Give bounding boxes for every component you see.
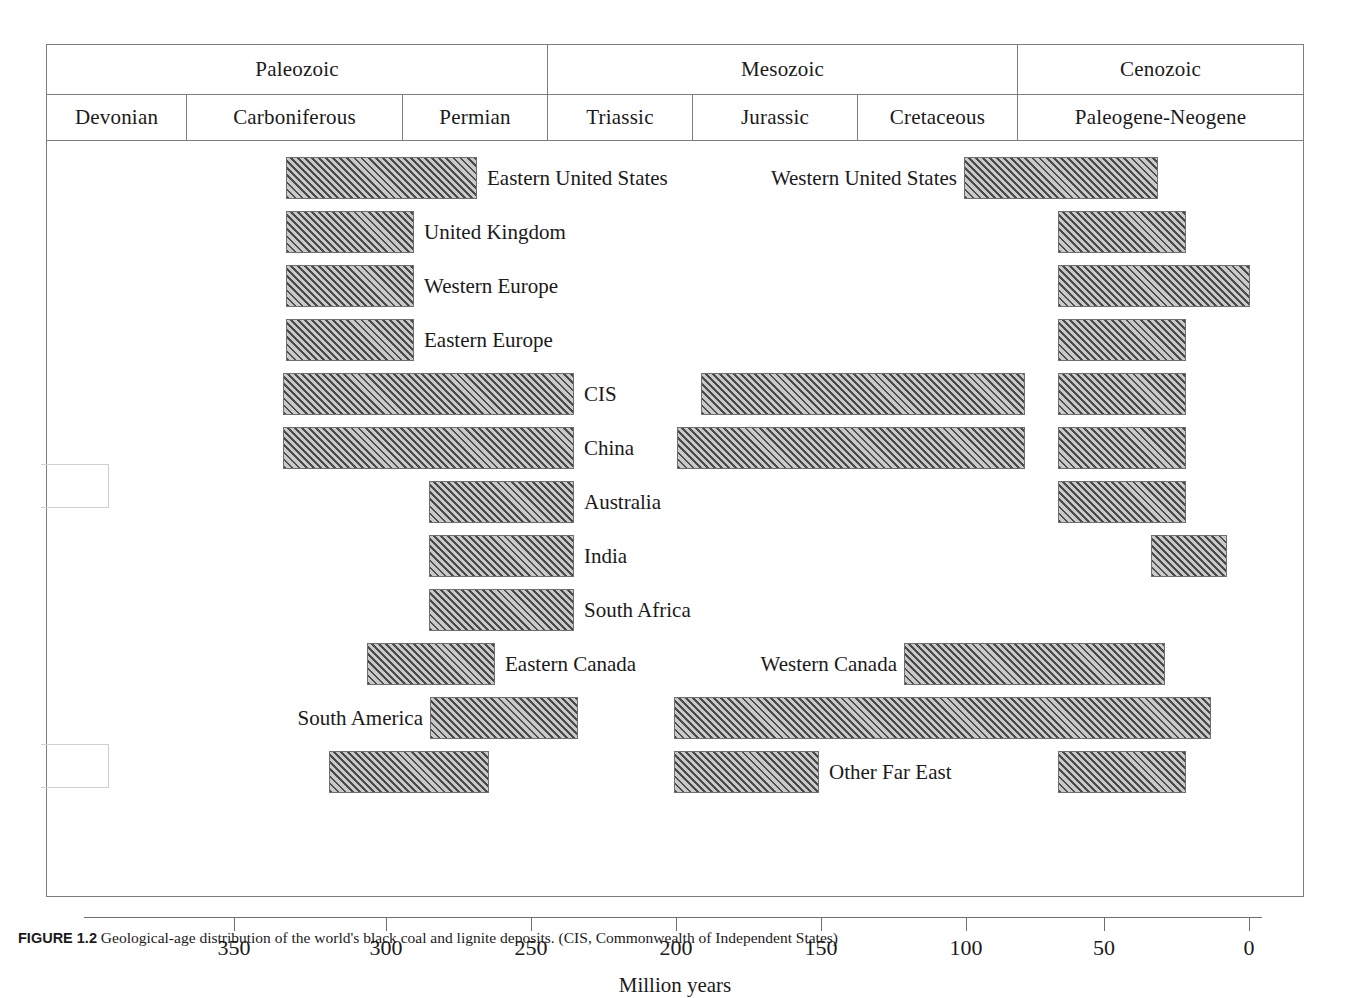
bar-china-3 xyxy=(1058,427,1186,469)
bar-india-1 xyxy=(429,535,574,577)
row-label-eastern-canada: Eastern Canada xyxy=(505,643,636,685)
row-label-other-far-east: Other Far East xyxy=(829,751,951,793)
plot-area: Eastern United States Western United Sta… xyxy=(47,141,1303,896)
bar-australia-1 xyxy=(429,481,574,523)
bar-australia-2 xyxy=(1058,481,1186,523)
bar-western-united-states-1 xyxy=(964,157,1158,199)
figure-caption-label: FIGURE 1.2 xyxy=(18,930,97,946)
era-label-paleozoic: Paleozoic xyxy=(255,57,338,82)
era-cell-paleozoic: Paleozoic xyxy=(47,45,548,94)
row-label-eastern-europe: Eastern Europe xyxy=(424,319,553,361)
bar-eastern-europe-1 xyxy=(286,319,414,361)
bar-other-far-east-1 xyxy=(329,751,489,793)
bar-south-america-2 xyxy=(674,697,1211,739)
bar-other-far-east-2 xyxy=(674,751,819,793)
axis-line xyxy=(84,917,1262,918)
row-label-western-europe: Western Europe xyxy=(424,265,558,307)
period-label-paleogene-neogene: Paleogene-Neogene xyxy=(1075,105,1246,130)
period-label-devonian: Devonian xyxy=(75,105,158,130)
bar-eastern-canada-1 xyxy=(367,643,495,685)
row-label-western-canada: Western Canada xyxy=(677,643,897,685)
row-label-united-kingdom: United Kingdom xyxy=(424,211,566,253)
bar-china-2 xyxy=(677,427,1025,469)
bar-cis-2 xyxy=(701,373,1025,415)
row-label-south-africa: South Africa xyxy=(584,589,691,631)
era-header-row: Paleozoic Mesozoic Cenozoic xyxy=(47,45,1303,95)
bar-china-1 xyxy=(283,427,574,469)
bar-cis-3 xyxy=(1058,373,1186,415)
period-cell-jurassic: Jurassic xyxy=(693,95,858,140)
bar-eastern-united-states-1 xyxy=(286,157,477,199)
figure-caption-text: Geological-age distribution of the world… xyxy=(101,929,838,946)
bar-south-america-1 xyxy=(430,697,578,739)
period-label-carboniferous: Carboniferous xyxy=(233,105,356,130)
period-label-permian: Permian xyxy=(439,105,510,130)
axis-title: Million years xyxy=(47,973,1303,998)
bracket-marker-lower xyxy=(41,744,109,788)
row-label-australia: Australia xyxy=(584,481,661,523)
bar-western-europe-1 xyxy=(286,265,414,307)
period-cell-carboniferous: Carboniferous xyxy=(187,95,403,140)
period-cell-devonian: Devonian xyxy=(47,95,187,140)
bar-other-far-east-3 xyxy=(1058,751,1186,793)
figure-caption: FIGURE 1.2 Geological-age distribution o… xyxy=(18,928,1338,946)
bar-south-africa-1 xyxy=(429,589,574,631)
row-label-western-united-states: Western United States xyxy=(707,157,957,199)
era-label-cenozoic: Cenozoic xyxy=(1120,57,1201,82)
row-label-cis: CIS xyxy=(584,373,617,415)
bar-united-kingdom-2 xyxy=(1058,211,1186,253)
bar-western-canada-1 xyxy=(904,643,1165,685)
bar-united-kingdom-1 xyxy=(286,211,414,253)
row-label-india: India xyxy=(584,535,627,577)
row-label-south-america: South America xyxy=(267,697,423,739)
era-label-mesozoic: Mesozoic xyxy=(741,57,824,82)
period-label-triassic: Triassic xyxy=(586,105,653,130)
row-label-eastern-united-states: Eastern United States xyxy=(487,157,668,199)
period-cell-cretaceous: Cretaceous xyxy=(858,95,1018,140)
period-header-row: Devonian Carboniferous Permian Triassic … xyxy=(47,95,1303,141)
era-cell-cenozoic: Cenozoic xyxy=(1018,45,1303,94)
period-cell-paleogene-neogene: Paleogene-Neogene xyxy=(1018,95,1303,140)
period-cell-triassic: Triassic xyxy=(548,95,693,140)
period-label-cretaceous: Cretaceous xyxy=(890,105,985,130)
bar-cis-1 xyxy=(283,373,574,415)
figure-frame: Paleozoic Mesozoic Cenozoic Devonian Car… xyxy=(46,44,1304,897)
row-label-china: China xyxy=(584,427,634,469)
period-cell-permian: Permian xyxy=(403,95,548,140)
bar-eastern-europe-2 xyxy=(1058,319,1186,361)
bracket-marker-upper xyxy=(41,464,109,508)
bar-india-2 xyxy=(1151,535,1227,577)
bar-western-europe-2 xyxy=(1058,265,1250,307)
period-label-jurassic: Jurassic xyxy=(741,105,809,130)
era-cell-mesozoic: Mesozoic xyxy=(548,45,1018,94)
